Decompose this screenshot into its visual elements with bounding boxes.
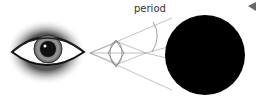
period-label: period [134, 4, 166, 14]
eye-period-diagram [0, 0, 259, 103]
period-dot [165, 15, 245, 95]
light-rays [90, 18, 175, 90]
pointer-triangle-icon [248, 2, 256, 11]
eye-icon [6, 19, 86, 85]
